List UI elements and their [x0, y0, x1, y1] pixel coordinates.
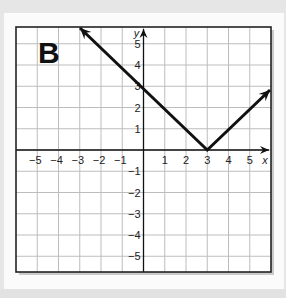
x-tick-label: −1 [114, 154, 127, 166]
y-tick-label: −1 [128, 165, 141, 177]
x-tick-label: −5 [29, 154, 42, 166]
x-tick-label: −3 [71, 154, 84, 166]
y-tick-label: −4 [128, 229, 141, 241]
y-tick-label: 4 [134, 59, 140, 71]
x-tick-label: −4 [50, 154, 63, 166]
x-tick-label: 3 [204, 154, 210, 166]
x-tick-label: 5 [247, 154, 253, 166]
y-tick-label: 1 [134, 123, 140, 135]
y-tick-label: −5 [128, 250, 141, 262]
y-tick-label: −2 [128, 187, 141, 199]
x-axis-label: x [261, 154, 268, 166]
x-tick-label: −2 [93, 154, 106, 166]
y-tick-label: −3 [128, 208, 141, 220]
x-tick-label: 4 [225, 154, 231, 166]
y-tick-label: 5 [134, 38, 140, 50]
y-tick-label: 2 [134, 102, 140, 114]
x-tick-label: 2 [183, 154, 189, 166]
panel-label: B [38, 38, 60, 68]
x-tick-label: 1 [162, 154, 168, 166]
